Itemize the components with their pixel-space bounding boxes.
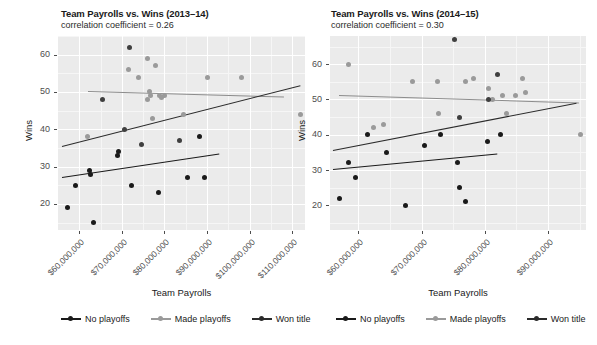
legend-point-icon <box>68 316 73 321</box>
x-axis-title-right: Team Payrolls <box>330 287 586 298</box>
data-point <box>353 175 358 180</box>
x-tick-label: $110,000,000 <box>251 237 299 285</box>
data-point <box>181 112 186 117</box>
made-playoffs-key <box>425 313 447 324</box>
y-tick-mark <box>54 129 57 130</box>
data-point <box>239 75 244 80</box>
legend-label: Made playoffs <box>175 314 231 324</box>
plot-area-left <box>58 36 305 230</box>
data-point <box>197 134 202 139</box>
gridline-minor-horizontal <box>58 185 305 186</box>
gridline-major-vertical <box>292 36 293 230</box>
data-point <box>486 97 491 102</box>
data-point <box>495 72 500 77</box>
won-title-key <box>251 313 273 324</box>
x-tick-mark <box>164 231 165 234</box>
legend-label: Won title <box>551 314 586 324</box>
gridline-major-vertical <box>122 36 123 230</box>
legend-item[interactable]: Made playoffs <box>150 313 231 324</box>
data-point <box>498 132 503 137</box>
legend-label: No playoffs <box>85 314 130 324</box>
data-point <box>346 62 351 67</box>
y-tick-mark <box>326 135 329 136</box>
x-tick-label: $80,000,000 <box>123 237 171 285</box>
x-tick-label: $70,000,000 <box>381 237 429 285</box>
data-point <box>381 122 386 127</box>
data-point <box>452 37 457 42</box>
legend-item[interactable]: Won title <box>526 313 586 324</box>
y-axis-title-right: Wins <box>296 111 307 151</box>
x-tick-label: $70,000,000 <box>81 237 129 285</box>
data-point <box>455 160 460 165</box>
y-tick-mark <box>326 64 329 65</box>
data-point <box>523 90 528 95</box>
data-point <box>127 45 132 50</box>
data-point <box>463 199 468 204</box>
data-point <box>145 97 150 102</box>
trend-line-wt <box>333 102 577 150</box>
gridline-minor-vertical <box>186 36 187 230</box>
x-tick-label: $60,000,000 <box>38 237 86 285</box>
gridline-major-vertical <box>250 36 251 230</box>
legend-item[interactable]: No playoffs <box>335 313 405 324</box>
data-point <box>88 172 93 177</box>
data-point <box>463 79 468 84</box>
y-tick-label: 60 <box>296 59 322 69</box>
legend-point-icon <box>259 316 264 321</box>
gridline-major-horizontal <box>58 204 305 205</box>
data-point <box>73 183 78 188</box>
gridline-major-vertical <box>79 36 80 230</box>
legend-left: No playoffsMade playoffsWon title <box>60 313 311 324</box>
legend-item[interactable]: No playoffs <box>60 313 130 324</box>
data-point <box>337 196 342 201</box>
gridline-major-vertical <box>164 36 165 230</box>
gridline-minor-horizontal <box>58 36 305 37</box>
x-tick-label: $60,000,000 <box>317 237 365 285</box>
data-point <box>384 150 389 155</box>
y-tick-label: 20 <box>24 198 50 208</box>
data-point <box>153 63 158 68</box>
legend-point-icon <box>433 316 438 321</box>
data-point <box>100 97 105 102</box>
gridline-major-vertical <box>207 36 208 230</box>
x-tick-mark <box>79 231 80 234</box>
data-point <box>435 79 440 84</box>
y-tick-mark <box>54 167 57 168</box>
data-point <box>471 76 476 81</box>
data-point <box>129 183 134 188</box>
gridline-minor-vertical <box>271 36 272 230</box>
plot-area-right <box>330 36 586 230</box>
chart-subtitle-left: correlation coefficient = 0.26 <box>61 20 174 30</box>
x-tick-mark <box>207 231 208 234</box>
y-tick-mark <box>326 205 329 206</box>
data-point <box>422 143 427 148</box>
y-tick-label: 30 <box>296 165 322 175</box>
legend-item[interactable]: Made playoffs <box>425 313 506 324</box>
y-tick-label: 50 <box>24 86 50 96</box>
gridline-major-vertical <box>485 36 486 230</box>
x-tick-label: $80,000,000 <box>444 237 492 285</box>
gridline-minor-vertical <box>228 36 229 230</box>
gridline-major-horizontal <box>58 129 305 130</box>
x-axis-title-left: Team Payrolls <box>58 287 305 298</box>
data-point <box>438 132 443 137</box>
legend-point-icon <box>158 316 163 321</box>
made-playoffs-key <box>150 313 172 324</box>
data-point <box>371 125 376 130</box>
data-point <box>346 160 351 165</box>
data-point <box>139 142 144 147</box>
y-tick-mark <box>54 55 57 56</box>
y-tick-mark <box>54 204 57 205</box>
gridline-minor-vertical <box>143 36 144 230</box>
data-point <box>485 139 490 144</box>
data-point <box>205 75 210 80</box>
data-point <box>126 67 131 72</box>
no-playoffs-key <box>335 313 357 324</box>
data-point <box>136 75 141 80</box>
y-tick-label: 50 <box>296 94 322 104</box>
data-point <box>436 111 441 116</box>
y-tick-label: 30 <box>24 161 50 171</box>
y-tick-mark <box>326 99 329 100</box>
x-tick-label: $90,000,000 <box>507 237 555 285</box>
data-point <box>578 132 583 137</box>
